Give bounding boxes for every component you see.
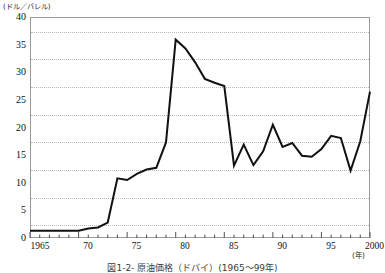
x-tick-label: 80 — [163, 241, 207, 251]
x-tick-label: 90 — [260, 241, 304, 251]
x-tick-label: 2000 — [348, 241, 384, 251]
figure-caption: 図1-2- 原油価格（ドバイ）(1965～99年) — [0, 263, 385, 273]
y-tick-label: 25 — [2, 95, 26, 105]
y-tick-label: 35 — [2, 40, 26, 50]
y-tick-label: 10 — [2, 178, 26, 188]
price-line — [30, 40, 370, 231]
x-tick-label: 85 — [212, 241, 256, 251]
y-tick-label: 20 — [2, 123, 26, 133]
y-tick-label: 30 — [2, 67, 26, 77]
figure-container: (ドル／バレル) 40 35 30 25 20 15 10 5 0 1965 7… — [0, 0, 385, 273]
x-tick-label: 1965 — [18, 241, 62, 251]
y-tick-label: 40 — [2, 12, 26, 22]
y-tick-label: 15 — [2, 150, 26, 160]
x-tick-label: 95 — [309, 241, 353, 251]
x-tick-label: 70 — [66, 241, 110, 251]
y-tick-label: 5 — [2, 205, 26, 215]
x-tick-label: 75 — [115, 241, 159, 251]
x-axis-unit-label: (年) — [352, 252, 365, 260]
price-series-chart — [30, 17, 370, 238]
